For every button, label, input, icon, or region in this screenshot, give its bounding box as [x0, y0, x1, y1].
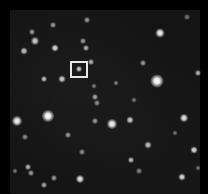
- sky-background: [10, 10, 200, 194]
- star: [41, 76, 47, 82]
- star: [92, 84, 97, 89]
- star: [107, 119, 117, 129]
- star: [50, 22, 56, 28]
- target-marker-box: [70, 61, 88, 78]
- star: [21, 48, 28, 55]
- star: [76, 175, 84, 183]
- star: [88, 59, 94, 65]
- star: [114, 81, 119, 86]
- star: [84, 17, 90, 23]
- star: [132, 98, 137, 103]
- star: [156, 29, 165, 38]
- star: [22, 134, 28, 140]
- star-field-image: [0, 0, 208, 194]
- star: [136, 168, 142, 174]
- star: [127, 117, 134, 124]
- star: [128, 157, 134, 163]
- star: [179, 174, 186, 181]
- star: [31, 37, 39, 45]
- star: [29, 29, 35, 35]
- star: [13, 169, 18, 174]
- star: [59, 76, 66, 83]
- star: [145, 142, 152, 149]
- star: [79, 149, 85, 155]
- star: [94, 100, 100, 106]
- star: [184, 14, 190, 20]
- star: [92, 118, 98, 124]
- star: [12, 116, 22, 126]
- star: [195, 70, 201, 76]
- star: [151, 75, 164, 88]
- star: [52, 45, 59, 52]
- star: [80, 38, 86, 44]
- star: [196, 166, 201, 171]
- star: [83, 45, 89, 51]
- star: [28, 170, 34, 176]
- star: [140, 60, 146, 66]
- star: [42, 110, 54, 122]
- star: [65, 132, 71, 138]
- star: [41, 182, 47, 188]
- star: [180, 114, 188, 122]
- star: [173, 131, 178, 136]
- star: [51, 175, 57, 181]
- star: [191, 147, 198, 154]
